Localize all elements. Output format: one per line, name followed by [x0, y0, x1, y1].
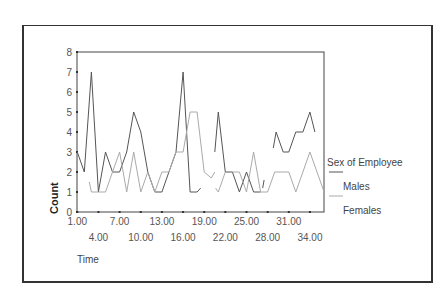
y-tick-mark — [76, 91, 78, 93]
x-tick-mark — [97, 211, 99, 213]
x-axis-label: Time — [77, 254, 99, 265]
x-tick-label: 16.00 — [171, 232, 196, 243]
legend-title: Sex of Employee — [327, 157, 403, 168]
x-tick-mark — [76, 211, 78, 213]
y-tick-label: 2 — [66, 167, 72, 178]
x-tick-mark — [161, 211, 163, 213]
x-tick-label: 31.00 — [276, 216, 301, 227]
x-tick-mark — [119, 211, 121, 213]
series-line-males — [77, 72, 200, 192]
x-tick-mark — [140, 211, 142, 213]
legend-label-females: Females — [343, 205, 381, 216]
legend-label-males: Males — [343, 181, 370, 192]
y-tick-label: 3 — [66, 147, 72, 158]
y-tick-label: 8 — [66, 47, 72, 58]
y-axis: 012345678 — [66, 47, 78, 218]
x-tick-mark — [203, 211, 205, 213]
x-tick-label: 10.00 — [128, 232, 153, 243]
series-line-females — [216, 152, 325, 192]
x-tick-mark — [246, 211, 248, 213]
x-tick-label: 28.00 — [255, 232, 280, 243]
x-tick-label: 1.00 — [68, 216, 88, 227]
x-tick-label: 19.00 — [192, 216, 217, 227]
y-tick-mark — [76, 111, 78, 113]
x-tick-label: 13.00 — [149, 216, 174, 227]
x-tick-label: 22.00 — [213, 232, 238, 243]
y-axis-label: Count — [48, 182, 60, 214]
x-tick-label: 4.00 — [89, 232, 109, 243]
y-tick-label: 6 — [66, 87, 72, 98]
series-line-males — [263, 180, 264, 188]
x-tick-mark — [267, 211, 269, 213]
y-tick-label: 5 — [66, 107, 72, 118]
x-tick-label: 7.00 — [110, 216, 130, 227]
y-tick-mark — [76, 191, 78, 193]
series-line-males — [273, 112, 315, 152]
x-tick-mark — [224, 211, 226, 213]
legend: Sex of Employee Males Females — [327, 157, 403, 216]
x-tick-label: 25.00 — [234, 216, 259, 227]
x-tick-mark — [288, 211, 290, 213]
y-tick-label: 7 — [66, 67, 72, 78]
y-tick-mark — [76, 171, 78, 173]
x-tick-label: 34.00 — [297, 232, 322, 243]
y-tick-mark — [76, 71, 78, 73]
series-line-females — [89, 112, 215, 192]
x-tick-mark — [182, 211, 184, 213]
x-axis: 1.007.0013.0019.0025.0031.004.0010.0016.… — [68, 211, 323, 243]
y-tick-mark — [76, 131, 78, 133]
x-tick-mark — [309, 211, 311, 213]
y-tick-mark — [76, 51, 78, 53]
y-tick-label: 4 — [66, 127, 72, 138]
y-tick-label: 1 — [66, 187, 72, 198]
series-lines — [77, 72, 324, 192]
line-chart: 012345678 1.007.0013.0019.0025.0031.004.… — [0, 0, 441, 289]
